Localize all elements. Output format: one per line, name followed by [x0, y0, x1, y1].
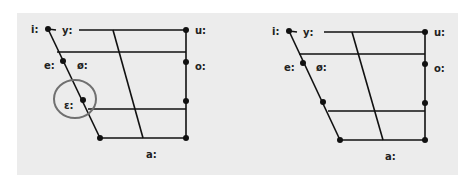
dot-a-front — [337, 137, 343, 143]
label-e: e: — [284, 62, 295, 73]
dot-a-front — [97, 135, 103, 141]
dot-e — [60, 58, 66, 64]
label-y: y: — [62, 25, 73, 36]
dot-u — [422, 29, 428, 35]
label-oe: ø: — [316, 62, 327, 73]
vowel-chart-right — [289, 31, 425, 140]
label-eps: ɛ: — [64, 100, 74, 111]
label-a: a: — [385, 151, 396, 162]
vowel-dots-right — [286, 28, 428, 143]
label-i: i: — [31, 24, 38, 35]
central-line — [352, 32, 383, 140]
labels-left: i: y: u: e: ø: o: ɛ: a: — [31, 24, 206, 160]
dot-a-back — [422, 137, 428, 143]
label-u: u: — [434, 27, 445, 38]
dot-eps — [320, 99, 326, 105]
dot-eps — [80, 97, 86, 103]
front-edge-line — [289, 31, 340, 140]
label-u: u: — [195, 25, 206, 36]
dot-open-o — [183, 98, 189, 104]
label-i: i: — [272, 26, 279, 37]
vowel-chart-left — [48, 29, 186, 138]
label-a: a: — [146, 149, 157, 160]
dot-open-o — [422, 100, 428, 106]
front-edge-line — [48, 29, 100, 138]
dot-i — [286, 28, 292, 34]
label-o: o: — [434, 63, 445, 74]
dot-e — [300, 60, 306, 66]
dot-o — [422, 61, 428, 67]
dot-o — [183, 59, 189, 65]
dot-u — [183, 27, 189, 33]
central-line — [113, 30, 143, 138]
label-y: y: — [303, 27, 314, 38]
label-e: e: — [44, 60, 55, 71]
label-oe: ø: — [77, 60, 88, 71]
dot-a-back — [183, 135, 189, 141]
label-o: o: — [195, 61, 206, 72]
dot-i — [45, 26, 51, 32]
labels-right: i: y: u: e: ø: o: a: — [272, 26, 445, 162]
vowel-charts: i: y: u: e: ø: o: ɛ: a: i: y: u: e: ø: o… — [0, 0, 475, 183]
